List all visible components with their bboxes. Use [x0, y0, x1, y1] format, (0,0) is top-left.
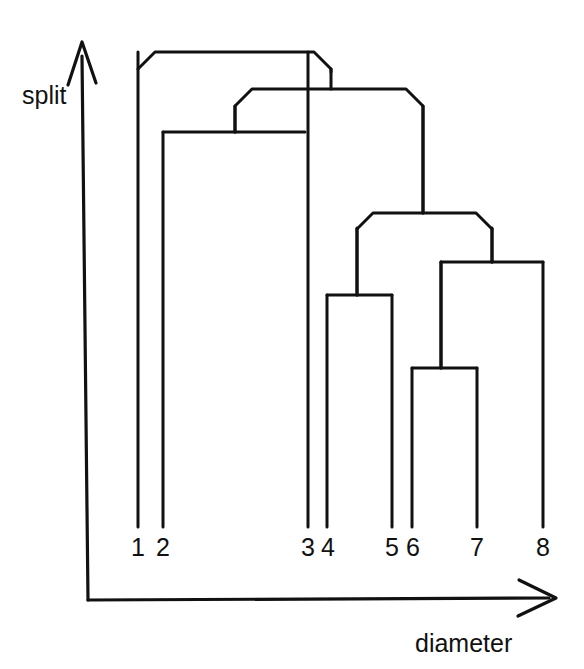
split-axis-line: [82, 56, 88, 600]
dendrogram-leaf-labels: 12345678: [131, 533, 550, 561]
leaf-label-1: 1: [131, 533, 145, 561]
diameter-axis-label: diameter: [415, 629, 512, 657]
split-axis-label: split: [22, 81, 67, 109]
merge-inner-right-bar: [235, 89, 423, 106]
leaf-label-8: 8: [536, 533, 550, 561]
leaf-label-2: 2: [156, 533, 170, 561]
leaf-label-7: 7: [470, 533, 484, 561]
leaf-label-6: 6: [406, 533, 420, 561]
diameter-axis-line: [88, 598, 549, 600]
dendrogram-canvas: 12345678 split diameter: [0, 0, 584, 669]
dendrogram-leaf-stems: [138, 52, 543, 527]
merge-56-78-bar: [357, 213, 492, 229]
axes-group: [68, 42, 556, 616]
dendrogram-links: [138, 52, 543, 368]
leaf-label-5: 5: [385, 533, 399, 561]
merge-root-bar: [138, 52, 331, 69]
leaf-label-3: 3: [301, 533, 315, 561]
dendrogram-figure: 12345678 split diameter: [0, 0, 584, 669]
leaf-label-4: 4: [321, 533, 335, 561]
